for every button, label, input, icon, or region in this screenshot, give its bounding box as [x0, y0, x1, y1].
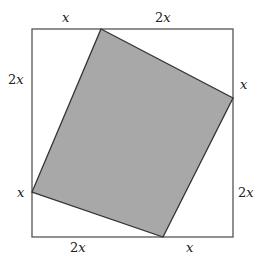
label-top-left: x [62, 11, 69, 24]
label-var: x [17, 185, 24, 200]
label-top-right: 2x [155, 11, 171, 24]
label-left-bottom: x [17, 186, 24, 199]
label-var: x [62, 10, 69, 25]
label-var: x [240, 77, 247, 92]
label-var: x [186, 240, 193, 255]
label-bottom-left: 2x [70, 241, 86, 254]
label-left-top: 2x [8, 73, 24, 86]
label-var: x [163, 10, 170, 25]
label-var: x [246, 185, 253, 200]
geometry-figure: x 2x x 2x 2x x 2x x [0, 0, 260, 262]
label-var: x [16, 72, 23, 87]
label-right-bottom: 2x [238, 186, 254, 199]
label-bottom-right: x [186, 241, 193, 254]
figure-canvas [0, 0, 260, 262]
label-var: x [78, 240, 85, 255]
label-right-top: x [240, 78, 247, 91]
